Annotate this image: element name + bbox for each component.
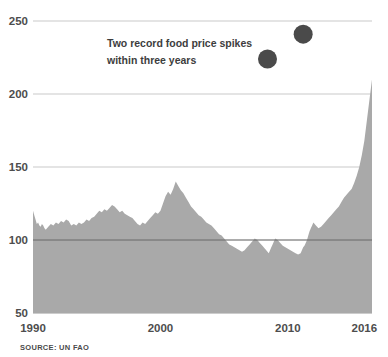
area-series — [33, 79, 372, 313]
x-tick-1990: 1990 — [20, 322, 46, 334]
y-tick-250: 250 — [9, 15, 28, 27]
peak-marker-1 — [258, 49, 277, 68]
y-tick-100: 100 — [9, 234, 28, 246]
x-axis-tick-labels: 1990200020102016 — [20, 322, 377, 334]
y-tick-50: 50 — [15, 307, 28, 319]
area-path — [33, 79, 372, 313]
y-tick-200: 200 — [9, 88, 28, 100]
chart-canvas: 50100150200250 1990200020102016 Two reco… — [0, 0, 388, 357]
annotation-line-2: within three years — [106, 54, 196, 66]
y-tick-150: 150 — [9, 161, 28, 173]
food-price-index-chart: 50100150200250 1990200020102016 Two reco… — [0, 0, 388, 357]
x-tick-2010: 2010 — [275, 322, 301, 334]
x-tick-2000: 2000 — [148, 322, 174, 334]
annotation-line-1: Two record food price spikes — [107, 37, 252, 49]
peak-markers — [258, 25, 313, 69]
x-tick-2016: 2016 — [352, 322, 378, 334]
source-caption: SOURCE: UN FAO — [20, 343, 89, 352]
y-axis-tick-labels: 50100150200250 — [9, 15, 28, 319]
peak-marker-2 — [294, 25, 313, 44]
